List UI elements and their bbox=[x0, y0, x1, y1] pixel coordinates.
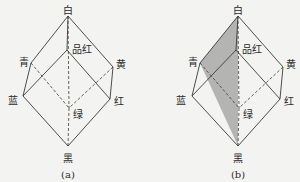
vertex-label-white: 白 bbox=[63, 4, 73, 16]
vertex-label-cyan: 青 bbox=[19, 56, 29, 68]
hidden-edge-white-green bbox=[68, 16, 69, 108]
edge-cyan-blue bbox=[23, 63, 31, 96]
color-cube-figure: 白品红青黄蓝红绿黑(a)白品红青黄蓝红绿黑(b) bbox=[0, 0, 300, 182]
edge-blue-black bbox=[23, 96, 68, 146]
edge-red-black bbox=[68, 99, 110, 146]
edge-magenta-red bbox=[67, 50, 110, 99]
vertex-label-yellow: 黄 bbox=[116, 58, 126, 70]
diagram-caption: (b) bbox=[231, 169, 245, 180]
edge-white-magenta bbox=[67, 16, 68, 50]
cube-diagram-b: 白品红青黄蓝红绿黑(b) bbox=[176, 4, 296, 180]
vertex-label-red: 红 bbox=[284, 95, 294, 107]
vertex-label-blue: 蓝 bbox=[176, 95, 186, 106]
color-cube-diagrams: 白品红青黄蓝红绿黑(a)白品红青黄蓝红绿黑(b) bbox=[0, 0, 300, 182]
hidden-edge-green-black bbox=[238, 108, 239, 146]
vertex-label-magenta: 品红 bbox=[242, 43, 262, 55]
hidden-edge-yellow-green bbox=[69, 67, 113, 108]
vertex-label-blue: 蓝 bbox=[8, 95, 18, 106]
vertex-label-green: 绿 bbox=[73, 108, 83, 120]
vertex-label-white: 白 bbox=[233, 4, 243, 16]
vertex-label-black: 黑 bbox=[233, 153, 243, 164]
hidden-edge-cyan-green bbox=[31, 63, 69, 108]
edge-magenta-blue bbox=[23, 50, 67, 96]
vertex-label-black: 黑 bbox=[63, 153, 73, 164]
diagram-caption: (a) bbox=[61, 169, 75, 180]
shaded-plane bbox=[200, 16, 238, 146]
edge-red-black bbox=[238, 99, 280, 146]
vertex-label-magenta: 品红 bbox=[72, 43, 92, 55]
vertex-label-cyan: 青 bbox=[188, 56, 198, 68]
edge-yellow-red bbox=[280, 67, 283, 99]
edge-cyan-blue bbox=[192, 63, 200, 96]
edge-yellow-red bbox=[110, 67, 113, 99]
hidden-edge-yellow-green bbox=[239, 67, 283, 108]
vertex-label-red: 红 bbox=[114, 95, 124, 107]
hidden-edge-green-black bbox=[68, 108, 69, 146]
hidden-edge-white-green bbox=[238, 16, 239, 108]
vertex-label-green: 绿 bbox=[243, 108, 253, 120]
edge-white-cyan bbox=[31, 16, 68, 63]
edge-magenta-red bbox=[236, 50, 280, 99]
cube-diagram-a: 白品红青黄蓝红绿黑(a) bbox=[8, 4, 126, 180]
vertex-label-yellow: 黄 bbox=[286, 58, 296, 70]
